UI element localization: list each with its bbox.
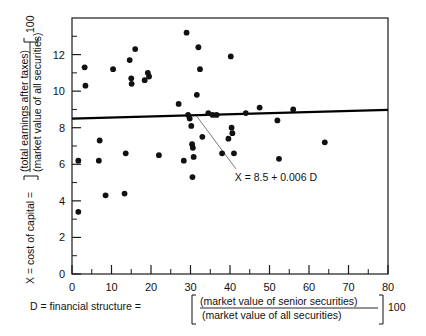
x-tick-label: 40 [224, 281, 236, 293]
data-point [75, 209, 81, 215]
data-point [75, 158, 81, 164]
x-tick-label: 30 [184, 281, 196, 293]
data-point [228, 54, 234, 60]
data-point [128, 75, 134, 81]
data-point [123, 150, 129, 156]
data-point [219, 150, 225, 156]
x-axis-label-prefix: D = financial structure = [30, 300, 141, 312]
data-point [122, 191, 128, 197]
y-axis-numerator: (total earnings after taxes) [18, 50, 30, 172]
plot-canvas: 02468101201020304050607080X = 8.5 + 0.00… [0, 0, 426, 336]
data-point [103, 192, 109, 198]
data-point [229, 130, 235, 136]
scatter-plot-figure: 02468101201020304050607080X = 8.5 + 0.00… [0, 0, 426, 336]
x-label-bracket-right [379, 295, 383, 324]
data-point [199, 134, 205, 140]
data-point [276, 156, 282, 162]
annotation-leader-line [197, 116, 236, 168]
y-tick-label: 4 [59, 195, 65, 207]
y-axis-label-prefix: X = cost of capital = [24, 192, 36, 284]
data-point [181, 158, 187, 164]
data-point [97, 138, 103, 144]
y-label-bracket-bottom [24, 176, 38, 180]
regression-equation-label: X = 8.5 + 0.006 D [235, 171, 318, 183]
data-point [188, 123, 194, 129]
data-point [197, 66, 203, 72]
data-point [290, 107, 296, 113]
data-point [191, 154, 197, 160]
data-point [190, 145, 196, 151]
data-point [194, 92, 200, 98]
x-tick-label: 80 [382, 281, 394, 293]
x-tick-label: 10 [105, 281, 117, 293]
data-point [231, 150, 237, 156]
data-point [83, 83, 89, 89]
y-axis-label-group: X = cost of capital =(total earnings aft… [18, 15, 43, 284]
x-tick-label: 70 [342, 281, 354, 293]
data-point [214, 112, 220, 118]
data-point [322, 139, 328, 145]
data-point [82, 64, 88, 70]
regression-line [72, 110, 388, 119]
data-point [226, 136, 232, 142]
x-tick-label: 0 [69, 281, 75, 293]
data-point [176, 101, 182, 107]
data-point [187, 116, 193, 122]
y-tick-label: 12 [53, 49, 65, 61]
data-point [146, 74, 152, 80]
y-tick-label: 8 [59, 122, 65, 134]
data-point [96, 158, 102, 164]
data-point [196, 44, 202, 50]
x-tick-label: 50 [263, 281, 275, 293]
data-point [275, 118, 281, 124]
x-axis-numerator: (market value of senior securities) [200, 295, 358, 307]
data-point [229, 125, 235, 131]
data-point [243, 110, 249, 116]
x-axis-multiplier: 100 [388, 301, 406, 313]
data-point [132, 46, 138, 52]
x-tick-label: 60 [303, 281, 315, 293]
data-point [257, 105, 263, 111]
data-point [190, 174, 196, 180]
y-tick-label: 6 [59, 158, 65, 170]
y-tick-label: 2 [59, 231, 65, 243]
y-axis-denominator: (market value of all securities) [31, 33, 43, 172]
x-tick-label: 20 [145, 281, 157, 293]
y-tick-label: 10 [53, 85, 65, 97]
y-tick-label: 0 [59, 268, 65, 280]
x-label-bracket-left [192, 295, 196, 324]
data-point [127, 57, 133, 63]
data-point [156, 152, 162, 158]
data-point [110, 66, 116, 72]
x-axis-denominator: (market value of all securities) [202, 309, 341, 321]
y-axis-multiplier: 100 [24, 15, 36, 33]
data-point [129, 81, 135, 87]
data-point [184, 30, 190, 36]
